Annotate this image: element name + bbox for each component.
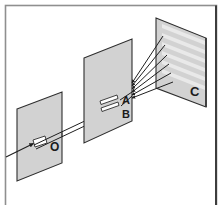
label-o: O	[50, 140, 59, 154]
label-b: B	[122, 108, 130, 120]
figure-container: A B C	[0, 0, 222, 205]
plane-o	[17, 92, 62, 181]
label-c: C	[190, 84, 200, 99]
plane-ab: A B	[84, 39, 132, 143]
optics-diagram: A B C	[0, 0, 222, 205]
plane-c: C	[156, 18, 206, 107]
